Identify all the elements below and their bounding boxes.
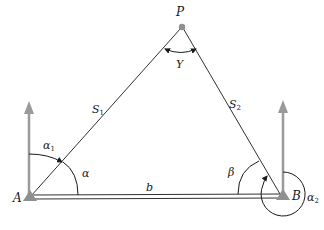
label-side-b: b bbox=[146, 182, 153, 193]
label-angle-alpha2: α2 bbox=[307, 192, 319, 205]
alpha1-arc bbox=[29, 154, 62, 162]
north-arrow-b-icon bbox=[278, 100, 288, 195]
label-point-b: B bbox=[292, 190, 301, 202]
label-side-s2: S2 bbox=[229, 99, 241, 112]
label-angle-alpha1: α1 bbox=[43, 140, 55, 153]
north-arrow-a-icon bbox=[24, 101, 34, 196]
label-angle-beta: β bbox=[228, 167, 234, 178]
label-angle-gamma: Y bbox=[176, 59, 183, 70]
label-side-s1: S1 bbox=[92, 104, 104, 117]
label-point-p: P bbox=[176, 6, 184, 18]
label-angle-alpha: α bbox=[82, 168, 89, 179]
triangulation-diagram: P A B Y S1 S2 b α1 α β α2 bbox=[0, 0, 324, 230]
label-point-a: A bbox=[13, 192, 22, 204]
alpha-arc bbox=[63, 162, 78, 195]
gamma-arc bbox=[165, 49, 196, 53]
baseline-b bbox=[30, 194, 283, 199]
point-p-marker-icon bbox=[179, 24, 185, 30]
beta-arc bbox=[238, 161, 259, 194]
diagram-canvas bbox=[0, 0, 324, 230]
side-s1 bbox=[31, 28, 181, 196]
